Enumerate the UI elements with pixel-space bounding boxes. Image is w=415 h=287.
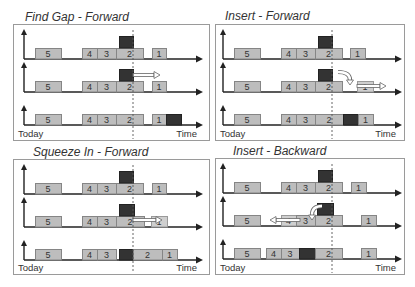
panel-insert-forward: 543215432154321TodayTime <box>216 25 405 141</box>
panel-title-insert-backward: Insert - Backward <box>233 144 326 158</box>
task-label: 3 <box>104 184 109 194</box>
task-label: 2 <box>326 183 331 193</box>
panel-title-squeeze-in-forward: Squeeze In - Forward <box>33 145 148 159</box>
task-label: 2 <box>145 250 150 260</box>
task-label: 4 <box>286 183 291 193</box>
today-label: Today <box>220 262 246 273</box>
task-label: 3 <box>303 216 308 226</box>
task-label: 1 <box>156 115 161 125</box>
new-task-block <box>120 172 134 184</box>
today-label: Today <box>18 128 44 139</box>
task-label: 2 <box>326 216 331 226</box>
time-label: Time <box>375 262 396 273</box>
move-arrow-shaft <box>357 85 380 88</box>
new-task-block <box>120 70 134 82</box>
new-task-block <box>167 115 182 126</box>
panel-title-find-gap-forward: Find Gap - Forward <box>25 10 129 24</box>
time-label: Time <box>176 128 197 139</box>
task-label: 1 <box>366 216 371 226</box>
task-label: 5 <box>244 216 249 226</box>
task-label: 3 <box>104 217 109 227</box>
task-label: 3 <box>104 115 109 125</box>
task-label: 2 <box>326 82 331 92</box>
task-label: 3 <box>104 82 109 92</box>
move-arrow-shaft <box>276 219 300 222</box>
task-label: 5 <box>244 183 249 193</box>
move-arrow-shaft <box>133 74 154 77</box>
new-task-block <box>319 171 333 183</box>
new-task-block <box>120 205 135 217</box>
task-label: 4 <box>87 217 92 227</box>
task-label: 3 <box>303 115 308 125</box>
task-label: 4 <box>87 82 92 92</box>
today-label: Today <box>220 128 246 139</box>
task-label: 3 <box>303 82 308 92</box>
today-label: Today <box>18 262 44 273</box>
task-label: 1 <box>356 183 361 193</box>
panel-find-gap-forward: 543215432154321TodayTime <box>14 25 210 141</box>
task-label: 1 <box>156 49 161 59</box>
time-label: Time <box>375 128 396 139</box>
new-task-block <box>344 115 359 126</box>
task-label: 4 <box>87 184 92 194</box>
task-label: 2 <box>127 184 132 194</box>
task-label: 2 <box>127 115 132 125</box>
task-label: 5 <box>45 82 50 92</box>
scheduling-diagram: 543215432154321TodayTime543215432154321T… <box>0 0 415 287</box>
task-label: 5 <box>45 184 50 194</box>
task-label: 1 <box>366 249 371 259</box>
task-label: 4 <box>271 249 276 259</box>
task-label: 4 <box>286 49 291 59</box>
task-label: 4 <box>87 49 92 59</box>
task-label: 5 <box>244 249 249 259</box>
task-label: 1 <box>167 250 172 260</box>
task-label: 4 <box>87 250 92 260</box>
task-label: 5 <box>45 49 50 59</box>
new-task-block <box>319 70 333 82</box>
task-label: 3 <box>303 49 308 59</box>
task-label: 5 <box>45 115 50 125</box>
panel-title-insert-forward: Insert - Forward <box>225 9 310 23</box>
task-label: 2 <box>127 217 132 227</box>
task-label: 4 <box>286 115 291 125</box>
move-arrow-shaft <box>133 219 156 222</box>
task-label: 3 <box>287 249 292 259</box>
panel-squeeze-in-forward: 543215432154321TodayTime <box>14 160 210 275</box>
task-label: 5 <box>45 250 50 260</box>
task-label: 2 <box>127 82 132 92</box>
new-task-block <box>120 37 134 49</box>
task-label: 5 <box>244 115 249 125</box>
task-label: 2 <box>127 49 132 59</box>
task-label: 5 <box>244 82 249 92</box>
task-label: 3 <box>104 49 109 59</box>
task-label: 4 <box>286 82 291 92</box>
task-label: 5 <box>244 49 249 59</box>
task-label: 4 <box>87 115 92 125</box>
time-label: Time <box>176 262 197 273</box>
task-label: 2 <box>326 249 331 259</box>
task-label: 3 <box>303 183 308 193</box>
task-label: 1 <box>156 82 161 92</box>
task-label: 3 <box>104 250 109 260</box>
new-task-block <box>300 249 316 260</box>
task-label: 2 <box>326 49 331 59</box>
new-task-block <box>319 37 333 49</box>
task-label: 5 <box>45 217 50 227</box>
task-label: 1 <box>363 115 368 125</box>
panel-insert-backward: 543215432154321TodayTime <box>216 159 405 275</box>
task-label: 1 <box>355 49 360 59</box>
task-label: 1 <box>156 184 161 194</box>
new-task-block <box>120 250 134 261</box>
task-label: 2 <box>326 115 331 125</box>
